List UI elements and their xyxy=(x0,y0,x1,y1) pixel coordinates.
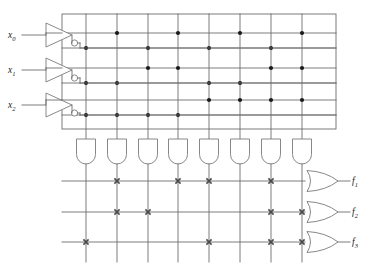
and-connection-dot-r2-c3[interactable] xyxy=(176,66,180,70)
and-connection-dot-r0-c7[interactable] xyxy=(300,31,304,35)
inverter-triangle-x2[interactable] xyxy=(46,93,72,117)
and-connection-dot-r4-c5[interactable] xyxy=(238,98,242,102)
and-connection-dot-r2-c6[interactable] xyxy=(269,66,273,70)
and-gate-and-5[interactable] xyxy=(200,139,219,164)
and-connection-dot-r0-c5[interactable] xyxy=(238,31,242,35)
and-gate-and-1[interactable] xyxy=(77,139,96,164)
and-connection-dot-r2-c2[interactable] xyxy=(146,66,150,70)
and-gate-and-6[interactable] xyxy=(231,139,250,164)
and-connection-dot-r4-c7[interactable] xyxy=(300,98,304,102)
pla-diagram: x0x1x2f1f2f3 xyxy=(0,0,370,269)
or-gate-or-f2[interactable] xyxy=(307,202,338,223)
or-gate-or-f3[interactable] xyxy=(307,232,338,253)
and-connection-dot-r4-c6[interactable] xyxy=(269,98,273,102)
and-gate-and-3[interactable] xyxy=(139,139,158,164)
and-gate-and-2[interactable] xyxy=(108,139,127,164)
and-plane-border xyxy=(62,14,336,129)
input-label-x1: x1 xyxy=(7,65,15,77)
inverter-triangle-x0[interactable] xyxy=(46,23,72,47)
circuit-canvas: x0x1x2f1f2f3 xyxy=(0,0,370,269)
and-connection-dot-r4-c4[interactable] xyxy=(207,98,211,102)
output-label-f3: f3 xyxy=(352,237,359,249)
output-label-f1: f1 xyxy=(352,176,358,188)
and-gate-and-8[interactable] xyxy=(293,139,312,164)
input-label-x2: x2 xyxy=(7,100,16,112)
and-gate-and-7[interactable] xyxy=(262,139,281,164)
and-connection-dot-r2-c7[interactable] xyxy=(300,66,304,70)
inverter-triangle-x1[interactable] xyxy=(46,58,72,82)
or-gate-or-f1[interactable] xyxy=(307,171,338,192)
and-gate-and-4[interactable] xyxy=(169,139,188,164)
and-connection-dot-r0-c3[interactable] xyxy=(176,31,180,35)
input-label-x0: x0 xyxy=(7,30,16,42)
output-label-f2: f2 xyxy=(352,207,359,219)
and-connection-dot-r0-c1[interactable] xyxy=(115,31,119,35)
